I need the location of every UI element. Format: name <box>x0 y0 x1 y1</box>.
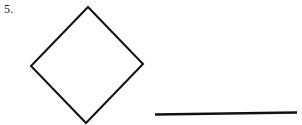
horizontal-line-segment <box>155 113 297 115</box>
worksheet-figure: 5. <box>0 0 302 125</box>
geometry-figure-canvas <box>0 0 302 125</box>
diamond-shape <box>31 7 143 123</box>
